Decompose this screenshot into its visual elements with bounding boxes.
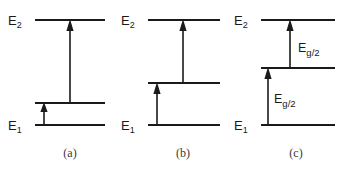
panel-a: E2 E1 (a)	[8, 13, 105, 160]
panel-b-transition-lower-to-intermediate	[153, 82, 160, 125]
panel-b-transition-intermediate-to-upper	[179, 19, 186, 83]
panel-a-lower-state-label: E1	[8, 118, 22, 135]
panel-b-lower-state-label: E1	[121, 118, 135, 135]
panel-b-upper-state-label: E2	[121, 13, 135, 30]
panel-b-caption: (b)	[176, 146, 190, 160]
panel-c-caption: (c)	[289, 146, 302, 160]
panel-c-lower-state-label: E1	[234, 118, 248, 135]
panel-c-transition-lower-to-intermediate	[264, 67, 271, 125]
panel-a-caption: (a)	[63, 146, 76, 160]
panel-c-upper-energy-label: Eg/2	[298, 41, 320, 58]
energy-level-figure: E2 E1 (a) E2 E1 (b)	[0, 0, 343, 171]
panel-a-transition-lower-to-intermediate	[40, 102, 47, 125]
panel-a-transition-intermediate-to-upper	[66, 19, 73, 103]
diagram-canvas: E2 E1 (a) E2 E1 (b)	[0, 0, 343, 171]
panel-c: Eg/2 Eg/2 E2 E1 (c)	[234, 13, 335, 160]
panel-c-upper-state-label: E2	[234, 13, 248, 30]
panel-c-lower-energy-label: Eg/2	[274, 92, 296, 109]
panel-a-upper-state-label: E2	[8, 13, 22, 30]
panel-b: E2 E1 (b)	[121, 13, 220, 160]
panel-c-transition-intermediate-to-upper	[286, 19, 293, 68]
